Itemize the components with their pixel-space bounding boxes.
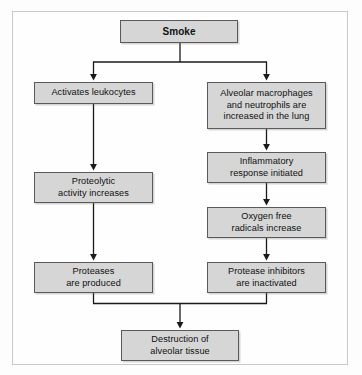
- node-oxygen-free-radicals[interactable]: Oxygen free radicals increase: [207, 207, 326, 238]
- node-destruction-alveolar-tissue[interactable]: Destruction of alveolar tissue: [121, 330, 239, 361]
- node-inflammatory-response[interactable]: Inflammatory response initiated: [207, 152, 326, 183]
- node-protease-inhibitors[interactable]: Protease inhibitors are inactivated: [207, 262, 326, 293]
- node-proteolytic-activity-label: Proteolytic activity increases: [58, 176, 129, 199]
- node-protease-inhibitors-label: Protease inhibitors are inactivated: [228, 266, 305, 289]
- node-smoke-label: Smoke: [162, 26, 195, 38]
- node-smoke[interactable]: Smoke: [120, 20, 238, 43]
- node-activates-leukocytes[interactable]: Activates leukocytes: [34, 82, 153, 104]
- diagram-canvas: Smoke Activates leukocytes Alveolar macr…: [0, 0, 362, 375]
- node-alveolar-macrophages[interactable]: Alveolar macrophages and neutrophils are…: [207, 82, 326, 129]
- node-destruction-alveolar-tissue-label: Destruction of alveolar tissue: [150, 334, 209, 357]
- node-proteases-produced-label: Proteases are produced: [66, 266, 121, 289]
- node-inflammatory-response-label: Inflammatory response initiated: [230, 156, 303, 179]
- node-activates-leukocytes-label: Activates leukocytes: [51, 87, 135, 99]
- node-proteolytic-activity[interactable]: Proteolytic activity increases: [34, 172, 153, 203]
- node-proteases-produced[interactable]: Proteases are produced: [34, 262, 153, 293]
- node-alveolar-macrophages-label: Alveolar macrophages and neutrophils are…: [220, 88, 312, 123]
- node-oxygen-free-radicals-label: Oxygen free radicals increase: [232, 211, 302, 234]
